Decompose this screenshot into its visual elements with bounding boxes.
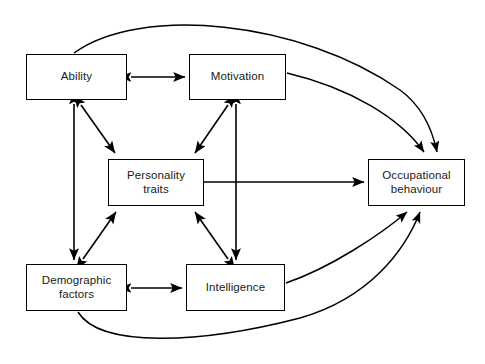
node-occupational-behaviour[interactable]: Occupational behaviour [368, 159, 465, 206]
node-demographic-factors-label: Demographic factors [39, 274, 115, 301]
node-personality-traits[interactable]: Personality traits [108, 159, 204, 206]
node-intelligence[interactable]: Intelligence [186, 264, 285, 311]
node-motivation-label: Motivation [208, 70, 267, 84]
edge-intelligence-occupational [286, 212, 407, 283]
node-intelligence-label: Intelligence [203, 281, 268, 295]
edge-demographic-personality [83, 212, 116, 259]
diagram-canvas: Ability Motivation Personality traits Oc… [0, 0, 485, 364]
node-personality-traits-label: Personality traits [124, 169, 188, 196]
node-ability[interactable]: Ability [26, 54, 127, 100]
node-ability-label: Ability [58, 70, 95, 84]
edge-ability-personality [81, 105, 115, 153]
edge-motivation-occupational [287, 73, 424, 152]
node-motivation[interactable]: Motivation [189, 54, 286, 100]
edge-intelligence-personality [195, 212, 228, 259]
node-occupational-behaviour-label: Occupational behaviour [379, 169, 453, 196]
edge-motivation-personality [195, 105, 228, 153]
node-demographic-factors[interactable]: Demographic factors [26, 264, 127, 311]
